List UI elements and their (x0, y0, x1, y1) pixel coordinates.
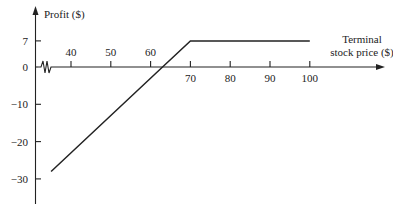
profit-line (51, 41, 310, 172)
x-axis-label-line1: Terminal (342, 33, 382, 45)
x-ticks: 405060708090100 (66, 46, 319, 84)
x-tick-label: 60 (145, 46, 157, 58)
y-tick-label: 0 (23, 61, 29, 73)
x-tick-label: 70 (185, 72, 197, 84)
x-tick-label: 80 (225, 72, 237, 84)
x-axis-label-line2: stock price ($) (330, 46, 393, 59)
y-ticks: 70−10−20−30 (11, 35, 41, 185)
series-group (51, 41, 310, 172)
y-tick-label: 7 (23, 35, 29, 47)
profit-chart: Profit ($) Terminal stock price ($) 4050… (0, 0, 393, 214)
x-tick-label: 90 (265, 72, 277, 84)
y-tick-label: −30 (11, 173, 29, 185)
y-axis-label: Profit ($) (44, 8, 85, 21)
y-axis-arrow (33, 6, 39, 15)
y-tick-label: −10 (11, 98, 29, 110)
x-tick-label: 40 (66, 46, 78, 58)
x-tick-label: 100 (302, 72, 319, 84)
x-tick-label: 50 (105, 46, 117, 58)
x-axis-arrow (376, 64, 385, 70)
y-tick-label: −20 (11, 136, 29, 148)
axis-break-icon (38, 61, 53, 73)
